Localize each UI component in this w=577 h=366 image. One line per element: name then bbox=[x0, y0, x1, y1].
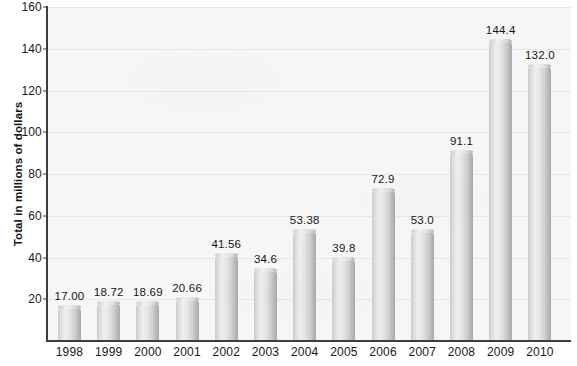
y-tick-label-20: 20 bbox=[2, 292, 42, 306]
y-tick-mark-140 bbox=[43, 48, 47, 49]
bar-chart: Total in millions of dollars 20406080100… bbox=[0, 0, 577, 366]
y-tick-label-120: 120 bbox=[2, 84, 42, 98]
y-tick-label-100: 100 bbox=[2, 125, 42, 139]
bar-1998 bbox=[58, 306, 81, 341]
bar-value-label-2009: 144.4 bbox=[474, 24, 528, 36]
x-axis-line bbox=[46, 340, 571, 342]
bar-value-label-2001: 20.66 bbox=[160, 282, 214, 294]
bar-value-label-2003: 34.6 bbox=[239, 253, 293, 265]
bar-2005 bbox=[332, 258, 355, 341]
bar-2006 bbox=[372, 189, 395, 341]
bar-value-label-2008: 91.1 bbox=[435, 135, 489, 147]
y-tick-mark-40 bbox=[43, 257, 47, 258]
x-tick-label-2010: 2010 bbox=[513, 345, 567, 359]
y-tick-label-40: 40 bbox=[2, 251, 42, 265]
bar-value-label-2007: 53.0 bbox=[395, 214, 449, 226]
bar-value-label-2004: 53.38 bbox=[278, 214, 332, 226]
bar-2007 bbox=[411, 230, 434, 341]
bar-2000 bbox=[136, 302, 159, 341]
y-tick-label-160: 160 bbox=[2, 0, 42, 14]
bar-value-label-2010: 132.0 bbox=[513, 49, 567, 61]
y-tick-mark-100 bbox=[43, 132, 47, 133]
bar-1999 bbox=[97, 302, 120, 341]
bar-2001 bbox=[176, 298, 199, 341]
bar-value-label-2006: 72.9 bbox=[356, 173, 410, 185]
y-axis-tick-labels: 20406080100120140160 bbox=[0, 0, 42, 366]
y-tick-mark-80 bbox=[43, 174, 47, 175]
y-tick-label-140: 140 bbox=[2, 42, 42, 56]
bar-2004 bbox=[293, 230, 316, 341]
bar-2010 bbox=[528, 65, 551, 341]
bar-value-label-2002: 41.56 bbox=[199, 238, 253, 250]
bar-2008 bbox=[450, 151, 473, 341]
bar-2002 bbox=[215, 254, 238, 341]
bar-2003 bbox=[254, 269, 277, 341]
y-tick-mark-160 bbox=[43, 7, 47, 8]
y-tick-mark-120 bbox=[43, 90, 47, 91]
bar-2009 bbox=[489, 40, 512, 341]
y-tick-mark-60 bbox=[43, 215, 47, 216]
y-tick-label-60: 60 bbox=[2, 209, 42, 223]
gridline-160 bbox=[47, 7, 571, 8]
bar-value-label-2005: 39.8 bbox=[317, 242, 371, 254]
y-tick-label-80: 80 bbox=[2, 167, 42, 181]
